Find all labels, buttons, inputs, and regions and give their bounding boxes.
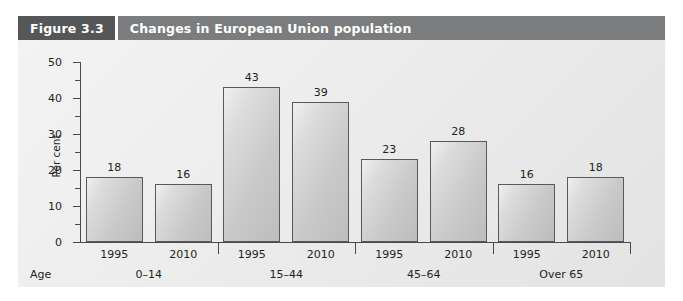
figure-number-block: Figure 3.3	[18, 16, 115, 40]
y-axis-tick-major: 50	[73, 62, 81, 63]
x-axis-group-label: 0–14	[136, 268, 163, 281]
bar[interactable]: 43	[223, 87, 280, 242]
x-axis-tick-label: 1995	[375, 248, 403, 261]
bar[interactable]: 16	[498, 184, 555, 242]
y-axis-tick-label: 20	[48, 164, 62, 177]
x-axis-tick-label: 1995	[513, 248, 541, 261]
bar[interactable]: 23	[361, 159, 418, 242]
x-axis-group-separator	[355, 243, 356, 254]
bar[interactable]: 16	[155, 184, 212, 242]
y-axis-tick-label: 10	[48, 200, 62, 213]
y-axis-tick-minor	[75, 116, 81, 117]
y-axis-tick-major: 40	[73, 98, 81, 99]
bar-value-label: 18	[107, 161, 121, 174]
x-axis-tick-label: 2010	[444, 248, 472, 261]
bar-value-label: 16	[520, 168, 534, 181]
x-axis-group-label: Over 65	[539, 268, 583, 281]
bar-value-label: 28	[451, 125, 465, 138]
x-axis-tick-label: 1995	[100, 248, 128, 261]
figure-root: Figure 3.3 Changes in European Union pop…	[0, 0, 683, 301]
y-axis-tick-label: 30	[48, 128, 62, 141]
x-axis-tick-label: 2010	[307, 248, 335, 261]
y-axis-tick-label: 50	[48, 56, 62, 69]
y-axis-tick-major: 0	[73, 242, 81, 243]
bar-value-label: 16	[176, 168, 190, 181]
y-axis-tick-major: 30	[73, 134, 81, 135]
x-axis-group-label: 15–44	[270, 268, 304, 281]
y-axis-tick-minor	[75, 188, 81, 189]
x-axis-tick-label: 1995	[238, 248, 266, 261]
figure-title: Changes in European Union population	[130, 21, 412, 36]
y-axis-tick-label: 40	[48, 92, 62, 105]
x-axis-group-separator	[493, 243, 494, 254]
x-axis-group-separator	[218, 243, 219, 254]
figure-number-label: Figure 3.3	[30, 21, 104, 36]
plot-area: Per cent Age 010203040501819951620100–14…	[80, 62, 630, 242]
bar-value-label: 39	[314, 86, 328, 99]
x-axis-group-label: 45–64	[407, 268, 441, 281]
y-axis-tick-major: 20	[73, 170, 81, 171]
bar[interactable]: 39	[292, 102, 349, 242]
bar[interactable]: 18	[567, 177, 624, 242]
bar[interactable]: 28	[430, 141, 487, 242]
chart-panel: Per cent Age 010203040501819951620100–14…	[18, 40, 665, 287]
y-axis-tick-minor	[75, 224, 81, 225]
bar-value-label: 23	[382, 143, 396, 156]
x-axis-group-separator	[630, 243, 631, 254]
bar[interactable]: 18	[86, 177, 143, 242]
bar-value-label: 43	[245, 71, 259, 84]
figure-header: Figure 3.3 Changes in European Union pop…	[18, 16, 665, 40]
y-axis-tick-label: 0	[55, 236, 62, 249]
bar-value-label: 18	[589, 161, 603, 174]
x-axis-tick-label: 2010	[169, 248, 197, 261]
x-axis-tick-label: 2010	[582, 248, 610, 261]
y-axis-tick-major: 10	[73, 206, 81, 207]
y-axis-tick-minor	[75, 152, 81, 153]
x-axis-age-label: Age	[30, 268, 51, 281]
figure-title-bar: Changes in European Union population	[118, 16, 665, 40]
y-axis-tick-minor	[75, 80, 81, 81]
